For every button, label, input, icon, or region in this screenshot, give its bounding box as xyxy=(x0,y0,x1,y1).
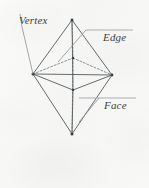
vertex-marker-top xyxy=(71,19,74,22)
solid-edges-group xyxy=(33,20,112,134)
vertex-marker-front xyxy=(72,89,74,91)
label-vertex: Vertex xyxy=(19,15,48,26)
solid-edge-bottom-left xyxy=(33,74,72,134)
solid-edge-left-right xyxy=(33,74,112,75)
vertex-marker-bottom xyxy=(71,133,74,136)
vertex-marker-right xyxy=(111,74,114,77)
solid-edge-top-front xyxy=(72,20,73,90)
label-edge: Edge xyxy=(103,32,126,43)
solid-edge-right-front xyxy=(73,75,112,90)
label-face: Face xyxy=(104,100,127,111)
vertex-leader-line xyxy=(22,27,33,74)
solid-edge-top-right xyxy=(72,20,112,75)
octahedron-drawing xyxy=(0,0,149,188)
face-leader-line xyxy=(79,98,99,122)
octahedron-figure: Vertex Edge Face xyxy=(0,0,149,188)
vertex-marker-back xyxy=(72,57,74,59)
solid-edge-left-front xyxy=(33,74,73,90)
